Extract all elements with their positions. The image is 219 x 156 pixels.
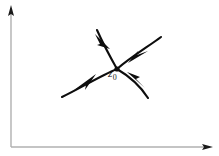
phase-portrait-figure: z0 [0,0,219,156]
trajectory-upper-right-curve [117,37,161,69]
trajectory-upper-left-curve [97,30,117,69]
arrowhead-lower-right [127,72,145,88]
critical-point-label-subscript: 0 [112,73,117,82]
trajectory-lower-right-curve [117,69,148,98]
arrowhead-upper-left [95,34,110,49]
trajectory-upper-left [95,30,117,69]
critical-point-label: z0 [108,68,117,82]
trajectory-upper-right [117,37,161,69]
trajectory-lower-right [117,69,148,98]
